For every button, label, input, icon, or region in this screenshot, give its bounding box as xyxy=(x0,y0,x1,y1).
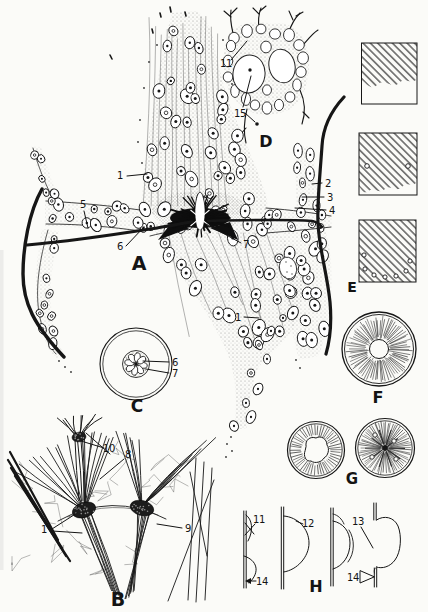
annotation-h-11: 11 xyxy=(253,514,265,525)
annotation-c-6: 6 xyxy=(172,357,178,368)
annotation-d-15: 15 xyxy=(234,108,246,119)
annotation-h-12: 12 xyxy=(302,518,314,529)
annotation-a-7: 7 xyxy=(243,239,249,250)
panel-e-letter: E xyxy=(347,279,357,295)
annotation-a-6: 6 xyxy=(117,241,123,252)
panel-b-letter: B xyxy=(111,588,125,610)
panel-f-central-canal xyxy=(370,340,389,359)
annotation-h-13: 13 xyxy=(352,516,364,527)
annotation-b-9: 9 xyxy=(185,523,191,534)
annotation-h-14-right: 14 xyxy=(347,572,359,583)
panel-g-right-center xyxy=(383,446,388,451)
panel-h-letter: H xyxy=(309,577,322,596)
vesicle xyxy=(365,164,370,169)
annotation-d-11: 11 xyxy=(220,58,232,69)
hatch-area-2 xyxy=(359,133,417,192)
anatomical-illustration: A B C D E F G H 1 5 6 7 2 3 4 1 6 7 11 1… xyxy=(0,0,428,612)
panel-f-letter: F xyxy=(373,388,384,407)
annotation-a-1-top: 1 xyxy=(117,170,123,181)
annotation-a-4: 4 xyxy=(329,205,335,216)
annotation-h-14-left: 14 xyxy=(256,576,268,587)
annotation-c-7: 7 xyxy=(172,368,178,379)
panel-g-letter: G xyxy=(346,470,358,488)
hatch-area-1 xyxy=(362,43,418,87)
annotation-b-1: 1 xyxy=(41,524,47,535)
vesicle xyxy=(406,164,411,169)
annotation-b-8: 8 xyxy=(125,449,131,460)
annotation-a-3: 3 xyxy=(327,192,333,203)
annotation-a-5: 5 xyxy=(80,199,86,210)
figure-plate: A B C D E F G H 1 5 6 7 2 3 4 1 6 7 11 1… xyxy=(0,0,428,612)
annotation-a-2: 2 xyxy=(325,178,331,189)
panel-c-letter: C xyxy=(131,396,143,416)
annotation-b-10: 10 xyxy=(103,443,115,454)
panel-d-letter: D xyxy=(259,132,272,151)
panel-e-squares xyxy=(359,43,417,282)
annotation-a-1-lower: 1 xyxy=(235,312,241,323)
panel-g-left-lumen xyxy=(304,437,328,462)
panel-a-letter: A xyxy=(132,252,147,274)
scan-edge-smudge xyxy=(0,250,4,570)
